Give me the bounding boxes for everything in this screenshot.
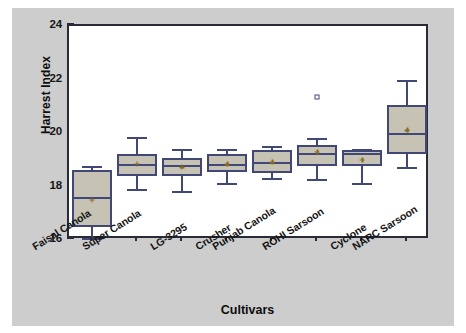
outlier-marker[interactable] xyxy=(315,94,320,99)
whisker-upper xyxy=(136,137,138,154)
mean-marker xyxy=(405,128,410,133)
whisker-cap-upper xyxy=(262,146,282,148)
x-axis-title: Cultivars xyxy=(67,303,428,317)
y-axis-tick-label: 24 xyxy=(50,18,62,30)
whisker-cap-lower xyxy=(127,189,147,191)
mean-marker xyxy=(179,165,184,170)
plot-area xyxy=(69,26,426,236)
mean-marker xyxy=(89,197,94,202)
median-line xyxy=(342,153,382,155)
whisker-cap-upper xyxy=(307,138,327,140)
mean-marker xyxy=(315,149,320,154)
whisker-cap-upper xyxy=(217,149,237,151)
plot-frame xyxy=(67,24,428,238)
y-axis-tick-labels: 1618202224 xyxy=(36,24,62,238)
boxplot-group[interactable] xyxy=(207,26,247,236)
boxplot-group[interactable] xyxy=(117,26,157,236)
y-axis-tick-label: 20 xyxy=(50,125,62,137)
mean-marker xyxy=(360,157,365,162)
whisker-cap-lower xyxy=(172,191,192,193)
boxplot-group[interactable] xyxy=(297,26,337,236)
whisker-cap-lower xyxy=(397,167,417,169)
whisker-upper xyxy=(406,80,408,105)
mean-marker xyxy=(270,160,275,165)
boxplot-group[interactable] xyxy=(342,26,382,236)
whisker-cap-upper xyxy=(127,137,147,139)
boxplot-group[interactable] xyxy=(72,26,112,236)
mean-marker xyxy=(224,162,229,167)
x-axis-tick-labels: Faisal CanolaSuper CanolaLG-3295CrusherP… xyxy=(67,238,428,308)
whisker-cap-lower xyxy=(352,183,372,185)
boxplot-group[interactable] xyxy=(162,26,202,236)
y-axis-tick-label: 22 xyxy=(50,72,62,84)
mean-marker xyxy=(134,161,139,166)
whisker-cap-upper xyxy=(82,166,102,168)
median-line xyxy=(387,133,427,135)
chart-figure: Harrest Index 1618202224 Faisal CanolaSu… xyxy=(0,0,466,333)
whisker-cap-lower xyxy=(307,179,327,181)
whisker-cap-upper xyxy=(397,80,417,82)
whisker-cap-lower xyxy=(217,183,237,185)
whisker-cap-lower xyxy=(262,178,282,180)
whisker-cap-upper xyxy=(172,149,192,151)
y-axis-tick-label: 18 xyxy=(50,179,62,191)
